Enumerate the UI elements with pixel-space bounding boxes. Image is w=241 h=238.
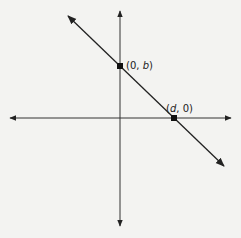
y-intercept-label: (0, b) [126, 61, 153, 71]
sloped-line [68, 16, 224, 166]
x-intercept-point [171, 115, 177, 121]
diagram-canvas: (0, b) (d, 0) [0, 0, 241, 238]
coordinate-plane [0, 0, 241, 238]
x-intercept-label: (d, 0) [166, 104, 193, 114]
y-intercept-point [117, 63, 123, 69]
